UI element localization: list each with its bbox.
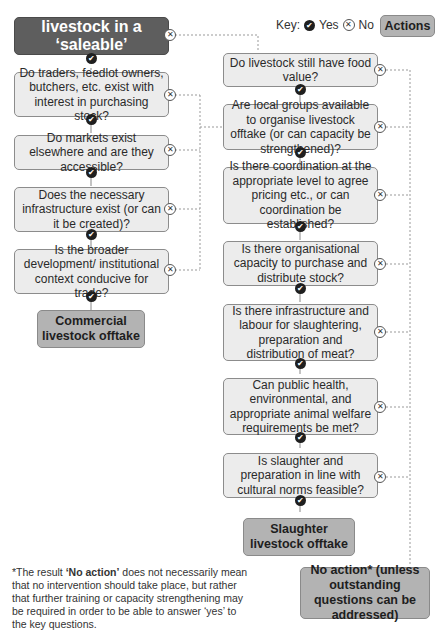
start-question: Are some livestock in a ‘saleable’ condi…	[14, 17, 169, 55]
right-question-1: Do livestock still have food value?	[223, 53, 378, 87]
yes-check-icon: ✔	[86, 53, 97, 64]
yes-check-icon: ✔	[295, 84, 306, 95]
yes-check-icon: ✔	[295, 432, 306, 443]
yes-check-icon: ✔	[86, 114, 97, 125]
legend-key: Key: ✔ Yes ✕ No	[276, 18, 374, 32]
yes-check-icon: ✔	[86, 291, 97, 302]
no-cross-icon: ✕	[374, 189, 386, 201]
no-cross-icon: ✕	[374, 326, 386, 338]
left-question-2: Do markets exist elsewhere and are they …	[14, 135, 169, 170]
footnote-prefix: *The result	[12, 566, 66, 578]
yes-check-icon: ✔	[295, 147, 306, 158]
key-yes-label: Yes	[319, 18, 339, 32]
yes-check-icon: ✔	[86, 167, 97, 178]
yes-check-icon: ✔	[295, 495, 306, 506]
no-cross-icon: ✕	[374, 471, 386, 483]
right-question-7: Is slaughter and preparation in line wit…	[223, 453, 378, 498]
yes-check-icon: ✔	[304, 20, 315, 31]
no-cross-icon: ✕	[164, 29, 176, 41]
left-question-4: Is the broader development/ institutiona…	[14, 249, 169, 294]
no-cross-icon: ✕	[374, 258, 386, 270]
no-cross-icon: ✕	[164, 144, 176, 156]
no-cross-icon: ✕	[343, 19, 355, 31]
no-cross-icon: ✕	[374, 121, 386, 133]
right-question-5: Is there infrastructure and labour for s…	[223, 304, 378, 361]
right-question-3: Is there coordination at the appropriate…	[223, 167, 378, 224]
yes-check-icon: ✔	[86, 229, 97, 240]
no-cross-icon: ✕	[374, 401, 386, 413]
no-cross-icon: ✕	[164, 264, 176, 276]
right-question-4: Is there organisational capacity to purc…	[223, 241, 378, 286]
footnote: *The result ‘No action’ does not necessa…	[12, 566, 252, 631]
yes-check-icon: ✔	[295, 283, 306, 294]
no-action-outcome: No action* (unless outstanding questions…	[300, 567, 430, 619]
key-actions-swatch: Actions	[380, 15, 435, 37]
key-label: Key:	[276, 18, 300, 32]
left-question-3: Does the necessary infrastructure exist …	[14, 187, 169, 232]
yes-check-icon: ✔	[295, 221, 306, 232]
no-cross-icon: ✕	[164, 89, 176, 101]
right-question-2: Are local groups available to organise l…	[223, 104, 378, 150]
slaughter-offtake-outcome: Slaughter livestock offtake	[243, 518, 355, 556]
yes-check-icon: ✔	[295, 358, 306, 369]
no-cross-icon: ✕	[374, 64, 386, 76]
right-question-6: Can public health, environmental, and ap…	[223, 378, 378, 435]
no-cross-icon: ✕	[164, 203, 176, 215]
left-question-1: Do traders, feedlot owners, butchers, et…	[14, 72, 169, 117]
key-no-label: No	[359, 18, 374, 32]
commercial-offtake-outcome: Commercial livestock offtake	[37, 310, 145, 348]
footnote-bold: ‘No action’	[66, 566, 120, 578]
